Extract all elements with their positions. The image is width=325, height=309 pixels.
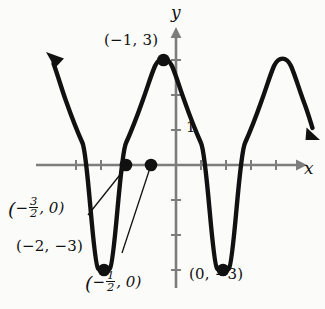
curve-group — [46, 52, 320, 272]
label-min-origin-point: (0, −3) — [189, 267, 243, 282]
curve-left-arrowhead — [46, 52, 64, 68]
label-zero-left-fraction: 3 2 — [29, 196, 38, 220]
label-zero-left-tail: , 0) — [39, 201, 64, 216]
leader-line-zero-right — [122, 171, 149, 253]
y-axis-tick-label-1: 1 — [186, 120, 196, 135]
graph-figure: x y 1 (−1, 3) (−2, −3) (0, −3) ( − 3 2 ,… — [0, 0, 325, 309]
label-zero-right-fraction: 1 2 — [106, 270, 115, 294]
y-axis-label: y — [171, 4, 181, 21]
label-min-left-point: (−2, −3) — [16, 239, 83, 254]
y-axis-arrowhead — [171, 27, 182, 38]
label-zero-right: ( − 1 2 , 0) — [85, 270, 141, 294]
label-zero-left-denominator: 2 — [29, 207, 38, 220]
label-zero-right-minus: − — [92, 275, 105, 290]
point-zero-neg-three-halves — [120, 159, 133, 172]
label-zero-right-tail: , 0) — [116, 275, 141, 290]
label-zero-left: ( − 3 2 , 0) — [8, 196, 64, 220]
label-zero-right-denominator: 2 — [106, 281, 115, 294]
label-zero-left-minus: − — [15, 201, 28, 216]
label-zero-left-open-paren: ( — [8, 200, 15, 219]
label-peak-point: (−1, 3) — [104, 33, 158, 48]
coordinate-plane — [0, 0, 325, 309]
x-axis-label: x — [304, 160, 314, 177]
point-zero-neg-one-half — [145, 159, 158, 172]
point-peak-neg1-3 — [157, 54, 170, 67]
label-zero-right-open-paren: ( — [85, 274, 92, 293]
